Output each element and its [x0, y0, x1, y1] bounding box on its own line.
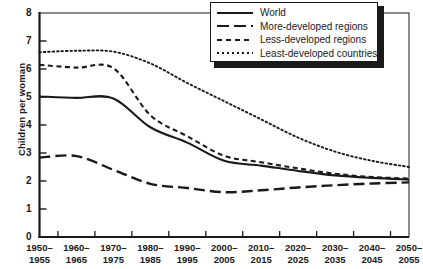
legend-item-label: Less-developed regions — [260, 34, 366, 45]
legend-item: World — [215, 6, 373, 20]
legend-line-sample-icon — [215, 34, 255, 46]
fertility-line-chart: Children per woman 012345678 1950–195519… — [0, 0, 423, 269]
legend-item: Least-developed countries — [215, 47, 373, 61]
legend-item-label: World — [260, 7, 286, 18]
series-line-world — [40, 96, 410, 179]
legend-item: More-developed regions — [215, 20, 373, 34]
legend-line-sample-icon — [215, 47, 255, 59]
legend-item: Less-developed regions — [215, 33, 373, 47]
chart-legend: WorldMore-developed regionsLess-develope… — [210, 2, 378, 62]
legend-line-sample-icon — [215, 7, 255, 19]
legend-line-sample-icon — [215, 20, 255, 32]
legend-item-label: More-developed regions — [260, 21, 368, 32]
data-series-layer — [40, 50, 410, 192]
legend-item-label: Least-developed countries — [260, 48, 377, 59]
